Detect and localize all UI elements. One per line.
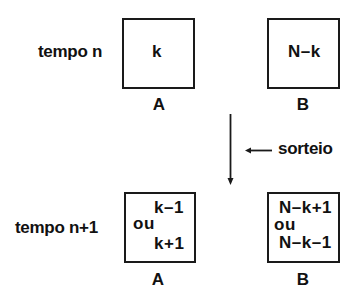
sorteio-label: sorteio <box>278 139 333 159</box>
arrow-left-icon <box>245 148 272 154</box>
box-a-time-n1: k–1 ou k+1 <box>124 192 196 263</box>
box-a-time-n1-or: ou <box>133 214 155 234</box>
box-a-time-n1-line2: k+1 <box>154 234 184 254</box>
arrow-down-icon <box>228 114 234 185</box>
box-a-time-n1-line1: k–1 <box>154 198 184 218</box>
box-b-time-n1-caption: B <box>293 270 313 290</box>
box-b-time-n1-or: ou <box>274 215 296 235</box>
box-b-time-n1-line2: N–k–1 <box>279 233 332 253</box>
box-a-time-n1-caption: A <box>148 270 168 290</box>
time-n1-label: tempo n+1 <box>15 218 98 238</box>
box-b-time-n1: N–k+1 ou N–k–1 <box>267 192 340 263</box>
